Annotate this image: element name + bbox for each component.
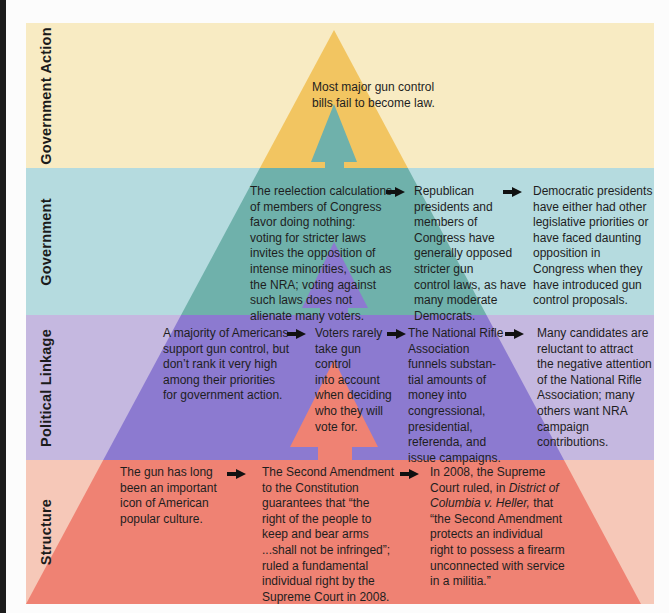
political-item-1: A majority of Americans support gun cont… (163, 326, 289, 404)
government-item-1: The reelection calculations of members o… (250, 184, 392, 324)
political-item-2: Voters rarely take gun control into acco… (315, 326, 392, 435)
right-arrow-icon (287, 329, 306, 339)
right-arrow-icon (387, 329, 406, 339)
political-item-4: Many candidates are reluctant to attract… (537, 326, 652, 451)
right-arrow-icon (503, 187, 522, 197)
pyramid-diagram: Government Action Government Political L… (26, 23, 654, 604)
right-arrow-icon (505, 329, 524, 339)
row-label-political-linkage: Political Linkage (26, 315, 66, 460)
government-item-3: Democratic presidents have either had ot… (533, 184, 652, 309)
row-label-structure: Structure (26, 460, 66, 604)
structure-item-1: The gun has long been an important icon … (120, 465, 217, 527)
right-arrow-icon (227, 469, 246, 479)
gov-action-outcome: Most major gun control bills fail to bec… (312, 80, 435, 111)
row-label-government: Government (26, 168, 66, 315)
political-item-3: The National Rifle Association funnels s… (408, 326, 503, 466)
left-edge (0, 0, 6, 613)
structure-item-2: The Second Amendment to the Constitution… (262, 465, 394, 604)
right-arrow-icon (386, 187, 405, 197)
row-label-government-action: Government Action (26, 23, 66, 168)
structure-item-3: In 2008, the SupremeCourt ruled, in Dist… (430, 465, 610, 590)
government-item-2: Republican presidents and members of Con… (414, 184, 526, 324)
right-arrow-icon (400, 469, 419, 479)
